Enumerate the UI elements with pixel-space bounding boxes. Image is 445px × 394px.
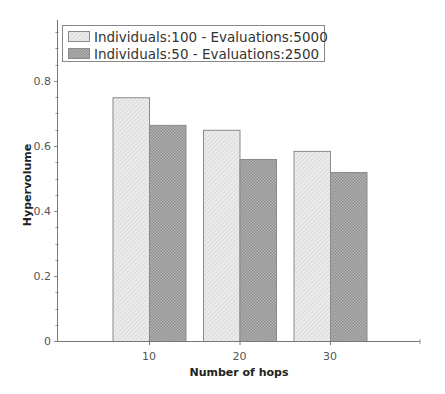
bar-30-series-1 — [294, 151, 331, 341]
bar-30-series-2 — [331, 173, 368, 342]
bar-20-series-2 — [240, 160, 277, 342]
bar-10-series-1 — [113, 98, 150, 342]
bars-group — [113, 98, 367, 342]
legend-swatch-series-1 — [69, 32, 90, 42]
bar-chart: 00.20.40.60.8 102030 Hypervolume Number … — [0, 0, 445, 394]
legend-swatch-series-2 — [69, 49, 90, 59]
bar-20-series-1 — [204, 130, 241, 341]
y-axis-title: Hypervolume — [21, 144, 34, 226]
bar-10-series-2 — [150, 125, 187, 341]
x-tick-label: 10 — [142, 350, 156, 363]
y-tick-label: 0 — [44, 335, 51, 348]
y-tick-label: 0.8 — [34, 75, 52, 88]
y-tick-label: 0.4 — [34, 205, 52, 218]
legend-label-series-1: Individuals:100 - Evaluations:5000 — [94, 29, 328, 45]
y-ticks: 00.20.40.60.8 — [34, 33, 59, 349]
y-tick-label: 0.6 — [34, 140, 52, 153]
x-tick-label: 30 — [323, 350, 337, 363]
x-tick-label: 20 — [233, 350, 247, 363]
legend-label-series-2: Individuals:50 - Evaluations:2500 — [94, 46, 319, 62]
x-ticks: 102030 — [142, 339, 420, 363]
x-axis-title: Number of hops — [189, 366, 289, 379]
legend: Individuals:100 - Evaluations:5000 Indiv… — [63, 26, 328, 62]
y-tick-label: 0.2 — [34, 270, 52, 283]
